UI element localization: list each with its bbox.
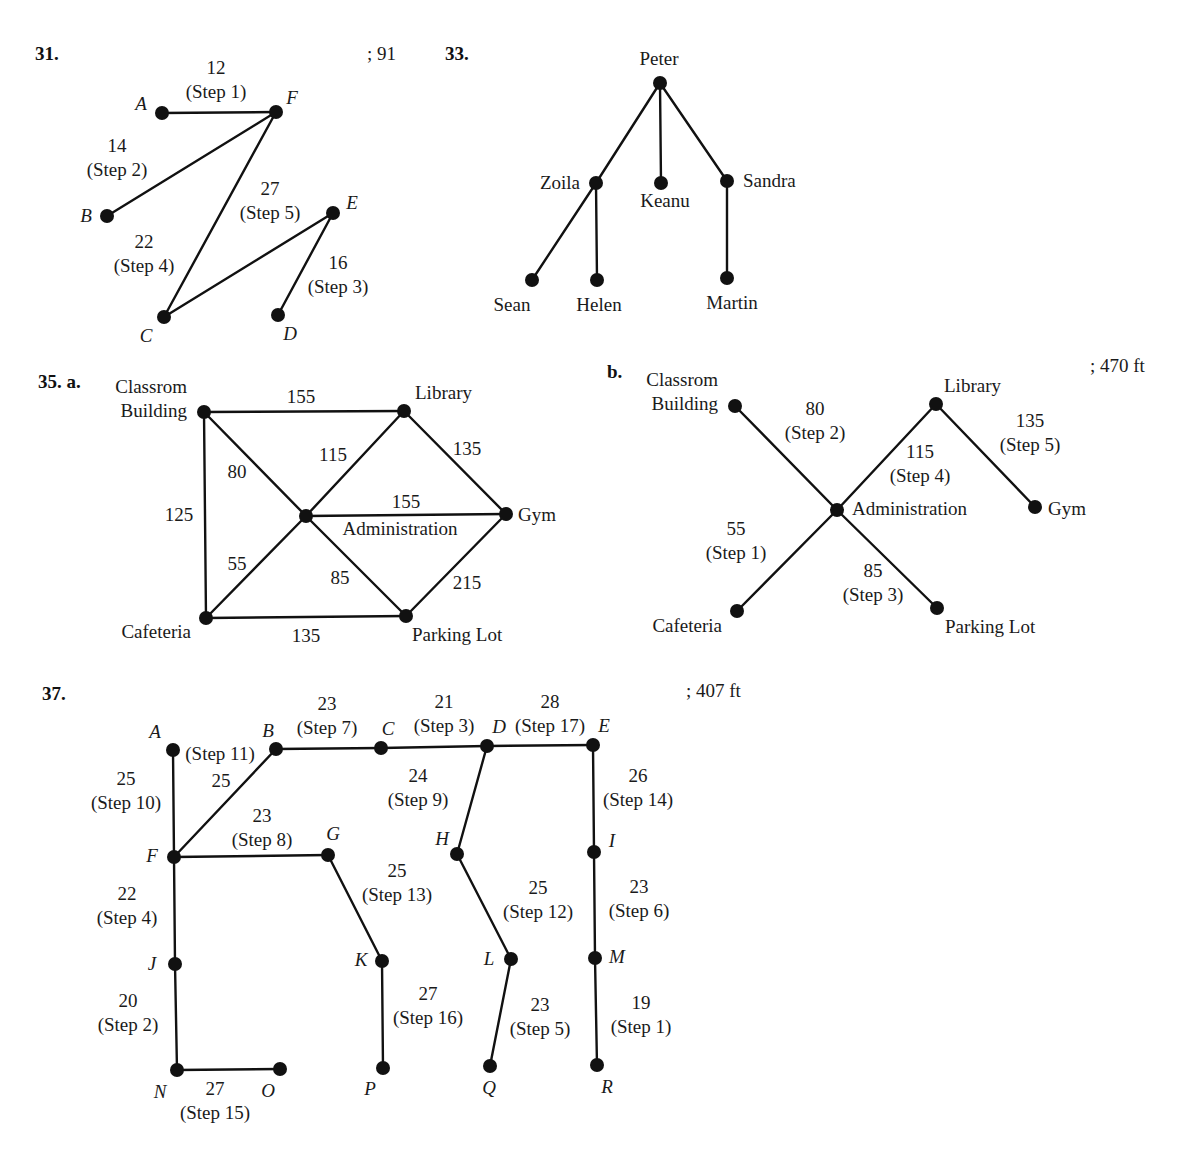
edge-step-label: (Step 15) — [180, 1102, 250, 1124]
edge-weight: 80 — [228, 461, 247, 482]
edge-I-M: 23(Step 6) — [594, 852, 669, 958]
edge-line — [457, 746, 487, 854]
total-weight-answer: ; 407 ft — [686, 680, 742, 701]
vertex-dot-icon — [728, 399, 742, 413]
node-martin: Martin — [706, 271, 758, 313]
vertex-label: B — [262, 720, 274, 741]
vertex-label: E — [345, 192, 358, 213]
node-cb: ClassromBuilding — [115, 376, 211, 421]
edge-Zoila-Sean — [532, 183, 596, 280]
edge-step-label: (Step 4) — [890, 465, 951, 487]
edge-line — [593, 745, 594, 852]
vertex-dot-icon — [326, 206, 340, 220]
node-e: E — [586, 715, 610, 752]
edge-C-D: 21(Step 3) — [381, 691, 487, 748]
vertex-label: Cafeteria — [121, 621, 191, 642]
edge-CB-CAF: 125 — [165, 412, 206, 618]
vertex-dot-icon — [450, 847, 464, 861]
node-gym: Gym — [1028, 498, 1086, 519]
vertex-label: Administration — [852, 498, 968, 519]
vertex-label: D — [491, 716, 506, 737]
edge-line — [206, 616, 406, 618]
node-caf: Cafeteria — [652, 604, 744, 636]
edge-line — [487, 745, 593, 746]
node-i: I — [587, 830, 617, 859]
vertex-dot-icon — [321, 848, 335, 862]
vertex-label: O — [261, 1080, 275, 1101]
edge-LIB-ADM: 115(Step 4) — [837, 404, 950, 510]
vertex-label: Classrom — [646, 369, 718, 390]
vertex-dot-icon — [271, 308, 285, 322]
edge-ADM-PL: 85(Step 3) — [837, 510, 937, 608]
vertex-label: G — [326, 823, 340, 844]
vertex-label: L — [483, 948, 495, 969]
edge-K-P: 27(Step 16) — [382, 961, 463, 1068]
edge-weight: 85 — [864, 560, 883, 581]
problem-number: b. — [607, 361, 622, 382]
edge-weight: 27 — [419, 983, 438, 1004]
edge-weight: 22 — [118, 883, 137, 904]
edge-line — [276, 748, 381, 749]
vertex-label: D — [282, 323, 297, 344]
edge-line — [164, 213, 333, 317]
edge-M-R: 19(Step 1) — [595, 958, 671, 1065]
vertex-dot-icon — [720, 271, 734, 285]
edge-LIB-ADM: 115 — [306, 411, 404, 516]
node-n: N — [153, 1063, 184, 1102]
node-gym: Gym — [499, 504, 556, 525]
vertex-label: M — [608, 946, 626, 967]
edge-line — [532, 183, 596, 280]
problem-37-minimum-spanning-tree: 37. ; 407 ft 25(Step 10)25(Step 11)23(St… — [42, 680, 742, 1124]
node-a: A — [147, 721, 180, 757]
vertex-label: J — [148, 953, 158, 974]
edge-step-label: (Step 2) — [785, 422, 846, 444]
node-peter: Peter — [639, 48, 679, 90]
edge-weight: 12 — [207, 57, 226, 78]
edge-line — [206, 516, 306, 618]
edge-weight: 115 — [319, 444, 347, 465]
vertex-label: Library — [415, 382, 472, 403]
edge-weight: 22 — [135, 231, 154, 252]
edge-weight: 115 — [906, 441, 934, 462]
vertex-label: F — [145, 845, 158, 866]
vertex-dot-icon — [397, 404, 411, 418]
edge-line — [173, 750, 174, 857]
vertex-dot-icon — [730, 604, 744, 618]
edges: 12(Step 1)14(Step 2)22(Step 4)27(Step 5)… — [87, 57, 369, 317]
edge-ADM-CAF: 55(Step 1) — [706, 510, 837, 611]
node-l: L — [483, 948, 518, 969]
vertex-label: Sandra — [743, 170, 796, 191]
edge-line — [204, 412, 306, 516]
node-pl: Parking Lot — [930, 601, 1036, 637]
vertex-label: H — [434, 828, 450, 849]
node-m: M — [588, 946, 626, 967]
vertex-dot-icon — [590, 1058, 604, 1072]
edge-line — [595, 958, 597, 1065]
edge-weight: 155 — [392, 491, 421, 512]
problem-31-minimum-spanning-tree: 31. ; 91 12(Step 1)14(Step 2)22(Step 4)2… — [35, 43, 396, 346]
edge-step-label: (Step 5) — [1000, 434, 1061, 456]
edge-weight: 55 — [727, 518, 746, 539]
edge-step-label: (Step 10) — [91, 792, 161, 814]
vertex-dot-icon — [720, 174, 734, 188]
vertex-dot-icon — [375, 954, 389, 968]
edge-line — [490, 959, 511, 1066]
edge-step-label: (Step 13) — [362, 884, 432, 906]
vertex-dot-icon — [199, 611, 213, 625]
vertex-label: Zoila — [540, 172, 581, 193]
edge-step-label: (Step 3) — [414, 715, 475, 737]
vertex-label: Gym — [1048, 498, 1086, 519]
edge-line — [382, 961, 383, 1068]
edge-weight: 27 — [261, 178, 280, 199]
vertex-dot-icon — [589, 176, 603, 190]
edge-step-label: (Step 1) — [186, 81, 247, 103]
vertex-dot-icon — [197, 405, 211, 419]
vertex-label: Peter — [639, 48, 679, 69]
vertex-dot-icon — [1028, 500, 1042, 514]
edge-step-label: (Step 6) — [609, 900, 670, 922]
edge-weight: 27 — [206, 1078, 225, 1099]
vertex-dot-icon — [483, 1059, 497, 1073]
vertex-label: Library — [944, 375, 1001, 396]
vertex-dot-icon — [930, 601, 944, 615]
vertex-label: C — [140, 325, 153, 346]
